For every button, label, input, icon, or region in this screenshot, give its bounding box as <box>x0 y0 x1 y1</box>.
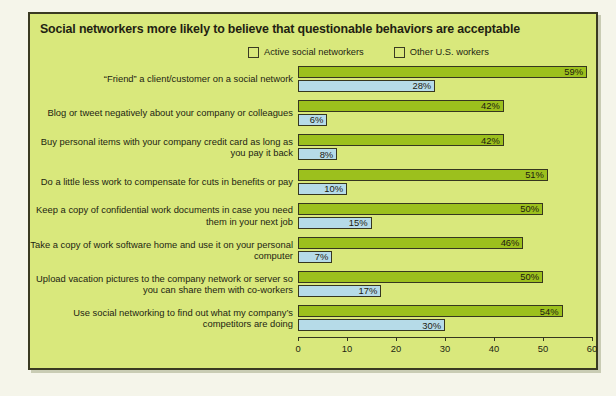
plot-area: “Friend” a client/customer on a social n… <box>270 64 592 360</box>
bar-other-us-workers: 6% <box>298 114 327 126</box>
bar-active-social-networkers: 59% <box>298 66 587 78</box>
bar-active-social-networkers: 54% <box>298 305 563 317</box>
category-label: Use social networking to find out what m… <box>25 307 293 330</box>
x-axis-tick-label: 20 <box>391 343 401 354</box>
chart-title: Social networkers more likely to believe… <box>40 22 585 36</box>
category-label: Do a little less work to compensate for … <box>25 176 293 188</box>
bar-value-label: 50% <box>520 204 542 213</box>
bar-value-label: 51% <box>525 170 547 179</box>
x-axis-tick <box>298 337 299 341</box>
chart-legend: Active social networkers Other U.S. work… <box>248 44 588 60</box>
bar-active-social-networkers: 42% <box>298 134 504 146</box>
bar-other-us-workers: 10% <box>298 183 347 195</box>
bar-value-label: 17% <box>359 286 381 295</box>
category-label: Blog or tweet negatively about your comp… <box>25 107 293 119</box>
bar-group: Buy personal items with your company cre… <box>298 134 592 160</box>
x-axis-tick-label: 30 <box>440 343 450 354</box>
bar-value-label: 10% <box>324 184 346 193</box>
bars-container: “Friend” a client/customer on a social n… <box>298 64 592 339</box>
bar-active-social-networkers: 46% <box>298 237 523 249</box>
bar-group: Upload vacation pictures to the company … <box>298 271 592 297</box>
x-axis-tick <box>592 337 593 341</box>
chart-panel: Social networkers more likely to believe… <box>28 12 598 370</box>
bar-other-us-workers: 30% <box>298 319 445 331</box>
legend-label-other-us-workers: Other U.S. workers <box>410 47 489 57</box>
bar-value-label: 59% <box>564 67 586 76</box>
bar-value-label: 30% <box>422 321 444 330</box>
bar-value-label: 46% <box>501 238 523 247</box>
bar-value-label: 8% <box>320 150 337 159</box>
chart-page: Social networkers more likely to believe… <box>0 0 616 396</box>
bar-active-social-networkers: 50% <box>298 203 543 215</box>
x-axis-tick <box>396 337 397 341</box>
bar-value-label: 7% <box>315 252 332 261</box>
legend-label-active-social-networkers: Active social networkers <box>264 47 364 57</box>
x-axis-tick <box>494 337 495 341</box>
bar-value-label: 42% <box>481 101 503 110</box>
bar-other-us-workers: 15% <box>298 217 372 229</box>
x-axis-tick-label: 10 <box>342 343 352 354</box>
bar-value-label: 54% <box>540 307 562 316</box>
bar-group: Take a copy of work software home and us… <box>298 237 592 263</box>
x-axis-tick-label: 60 <box>587 343 597 354</box>
bar-other-us-workers: 28% <box>298 80 435 92</box>
x-axis-tick-label: 40 <box>489 343 499 354</box>
bar-other-us-workers: 8% <box>298 148 337 160</box>
bar-other-us-workers: 7% <box>298 251 332 263</box>
x-axis-tick <box>347 337 348 341</box>
category-label: Buy personal items with your company cre… <box>25 136 293 159</box>
category-label: Keep a copy of confidential work documen… <box>25 204 293 227</box>
category-label: Take a copy of work software home and us… <box>25 239 293 262</box>
bar-value-label: 28% <box>412 81 434 90</box>
x-axis-tick-label: 50 <box>538 343 548 354</box>
x-axis-tick <box>543 337 544 341</box>
legend-swatch-blue <box>394 47 405 58</box>
bar-other-us-workers: 17% <box>298 285 381 297</box>
bar-group: Use social networking to find out what m… <box>298 305 592 331</box>
bar-value-label: 6% <box>310 115 327 124</box>
x-axis-tick <box>445 337 446 341</box>
bar-group: Do a little less work to compensate for … <box>298 169 592 195</box>
legend-item-other-us-workers: Other U.S. workers <box>394 47 489 58</box>
bar-group: Keep a copy of confidential work documen… <box>298 203 592 229</box>
category-label: Upload vacation pictures to the company … <box>25 273 293 296</box>
bar-active-social-networkers: 50% <box>298 271 543 283</box>
bar-group: “Friend” a client/customer on a social n… <box>298 66 592 92</box>
category-label: “Friend” a client/customer on a social n… <box>25 73 293 85</box>
bar-group: Blog or tweet negatively about your comp… <box>298 100 592 126</box>
x-axis-tick-label: 0 <box>295 343 300 354</box>
bar-value-label: 15% <box>349 218 371 227</box>
bar-active-social-networkers: 51% <box>298 169 548 181</box>
x-axis-ticks: 0102030405060 <box>298 337 592 357</box>
bar-active-social-networkers: 42% <box>298 100 504 112</box>
bar-value-label: 50% <box>520 272 542 281</box>
legend-item-active-social-networkers: Active social networkers <box>248 47 364 58</box>
legend-swatch-green <box>248 47 259 58</box>
bar-value-label: 42% <box>481 136 503 145</box>
